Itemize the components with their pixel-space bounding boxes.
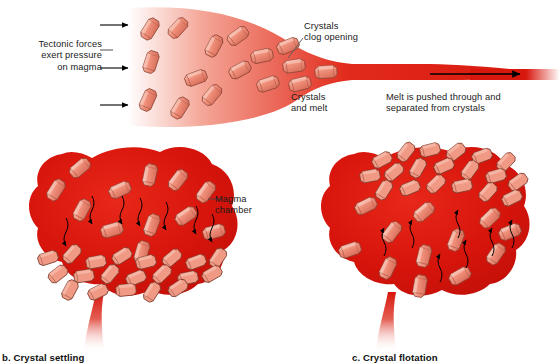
caption-crystal-flotation: c. Crystal flotation (352, 352, 438, 363)
tectonic-force-arrows (100, 25, 128, 105)
caption-crystal-settling: b. Crystal settling (2, 352, 84, 363)
label-crystals-and-melt: Crystals and melt (291, 92, 327, 115)
label-magma-chamber: Magma chamber (215, 194, 252, 217)
label-tectonic-forces: Tectonic forces exert pressure on magma (6, 39, 102, 73)
label-melt-pushed-through: Melt is pushed through and separated fro… (386, 92, 501, 115)
panel-crystal-flotation (321, 141, 530, 352)
flotation-conduit (376, 292, 396, 352)
settling-conduit (84, 292, 104, 352)
panel-crystal-settling (29, 147, 238, 352)
label-crystals-clog-opening: Crystals clog opening (304, 21, 358, 44)
figure-canvas: Tectonic forces exert pressure on magma … (0, 0, 560, 363)
